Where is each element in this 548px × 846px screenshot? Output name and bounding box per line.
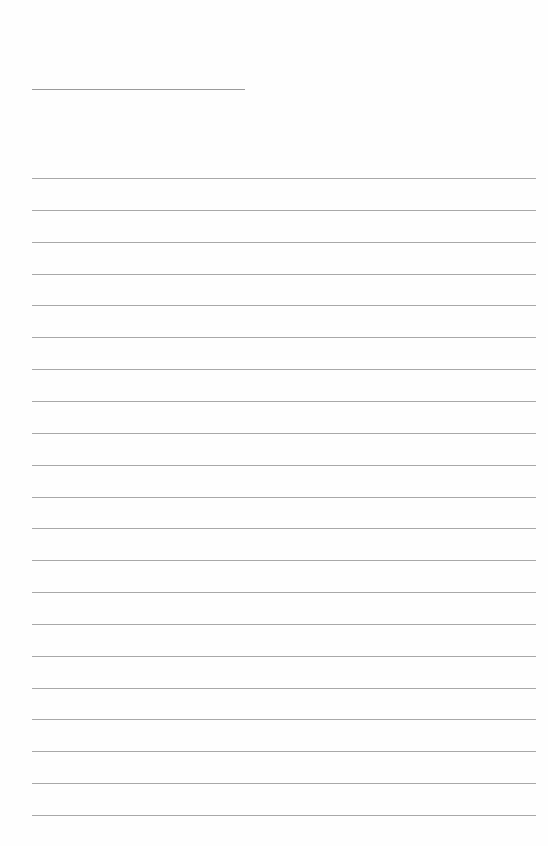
ruled-line — [32, 560, 536, 561]
ruled-line — [32, 783, 536, 784]
ruled-line — [32, 433, 536, 434]
ruled-line — [32, 337, 536, 338]
ruled-line — [32, 688, 536, 689]
ruled-line — [32, 624, 536, 625]
ruled-line — [32, 656, 536, 657]
ruled-line — [32, 592, 536, 593]
ruled-line — [32, 465, 536, 466]
ruled-line — [32, 242, 536, 243]
ruled-line — [32, 751, 536, 752]
ruled-line — [32, 719, 536, 720]
ruled-line — [32, 305, 536, 306]
ruled-line — [32, 815, 536, 816]
ruled-line — [32, 274, 536, 275]
ruled-line — [32, 178, 536, 179]
ruled-line — [32, 528, 536, 529]
ruled-line — [32, 369, 536, 370]
lined-paper-page — [0, 0, 548, 846]
ruled-line — [32, 497, 536, 498]
header-write-line — [32, 89, 245, 90]
ruled-line — [32, 401, 536, 402]
ruled-line — [32, 210, 536, 211]
